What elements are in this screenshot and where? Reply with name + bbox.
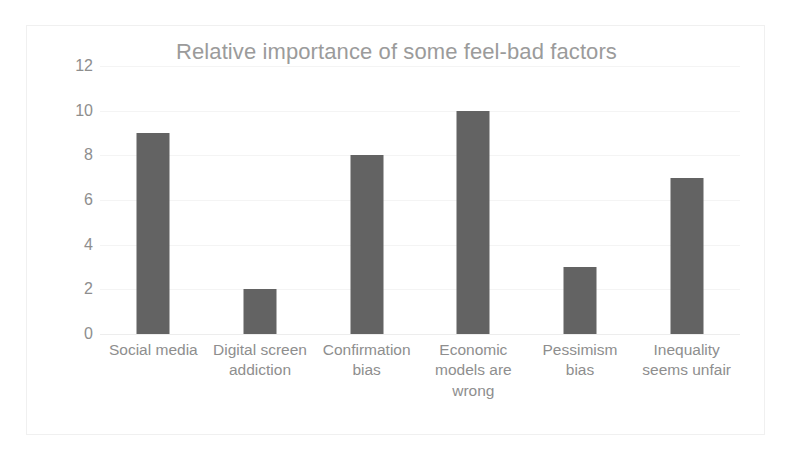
y-axis: 121086420	[27, 66, 93, 334]
x-axis-tick-label: Social media	[100, 340, 207, 360]
y-axis-tick-label: 0	[27, 326, 93, 342]
gridline	[100, 334, 740, 335]
bar-slot	[420, 66, 527, 334]
bar[interactable]	[563, 267, 596, 334]
bar-slot	[527, 66, 634, 334]
x-axis-tick-label: Confirmation bias	[313, 340, 420, 381]
x-axis-tick-label: Inequality seems unfair	[633, 340, 740, 381]
bar[interactable]	[243, 289, 276, 334]
y-axis-tick-label: 4	[27, 237, 93, 253]
x-axis: Social mediaDigital screen addictionConf…	[100, 340, 740, 430]
bar[interactable]	[350, 155, 383, 334]
bar[interactable]	[670, 178, 703, 334]
bar-slot	[100, 66, 207, 334]
y-axis-tick-label: 8	[27, 147, 93, 163]
bar-slot	[207, 66, 314, 334]
bar[interactable]	[137, 133, 170, 334]
plot-area	[100, 66, 740, 334]
y-axis-tick-label: 6	[27, 192, 93, 208]
chart-frame: Relative importance of some feel-bad fac…	[26, 25, 765, 435]
x-axis-tick-label: Digital screen addiction	[207, 340, 314, 381]
x-axis-tick-label: Pessimism bias	[527, 340, 634, 381]
y-axis-tick-label: 10	[27, 103, 93, 119]
y-axis-tick-label: 2	[27, 281, 93, 297]
y-axis-tick-label: 12	[27, 58, 93, 74]
chart-title: Relative importance of some feel-bad fac…	[27, 39, 766, 65]
bar-series	[100, 66, 740, 334]
x-axis-tick-label: Economic models are wrong	[420, 340, 527, 401]
bar-slot	[633, 66, 740, 334]
bar[interactable]	[457, 111, 490, 334]
bar-slot	[313, 66, 420, 334]
